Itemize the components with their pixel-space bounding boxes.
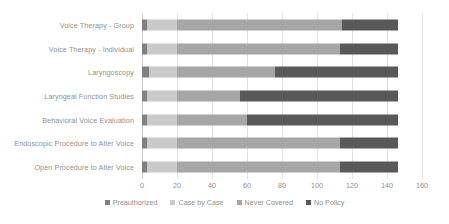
x-axis-tick-labels: 020406080100120140160 <box>0 181 449 193</box>
plot-area <box>142 13 422 179</box>
y-axis-category-label: Laryngeal Function Studies <box>44 92 134 101</box>
bar-segment <box>147 114 177 125</box>
x-axis-tick-label: 80 <box>278 181 286 190</box>
bar-row <box>142 138 398 149</box>
bar-segment <box>147 43 177 54</box>
y-axis-category-label: Voice Therapy - Individual <box>49 44 134 53</box>
bar-segment <box>177 67 275 78</box>
x-axis-tick-label: 100 <box>311 181 323 190</box>
legend-label: Case by Case <box>178 198 223 207</box>
legend-label: Never Covered <box>245 198 293 207</box>
bar-segment <box>147 19 177 30</box>
y-axis-category-label: Open Procedure to Alter Voice <box>34 163 134 172</box>
bar-segment <box>177 43 340 54</box>
bar-segment <box>147 162 177 173</box>
bar-segment <box>340 43 398 54</box>
legend-swatch-icon <box>306 200 311 205</box>
y-axis-category-label: Endoscopic Procedure to Alter Voice <box>14 139 134 148</box>
x-axis-tick-label: 20 <box>173 181 181 190</box>
bar-segment <box>147 138 177 149</box>
x-axis-tick-label: 0 <box>140 181 144 190</box>
bar-segment <box>177 138 340 149</box>
legend-item[interactable]: No Policy <box>306 198 344 207</box>
x-axis-tick-label: 140 <box>381 181 393 190</box>
x-axis-tick-label: 40 <box>208 181 216 190</box>
gridline <box>422 13 423 179</box>
bar-segment <box>275 67 398 78</box>
legend-swatch-icon <box>105 200 110 205</box>
bar-row <box>142 114 398 125</box>
bar-segment <box>147 91 177 102</box>
legend-item[interactable]: Preauthorized <box>105 198 158 207</box>
x-axis-tick-label: 160 <box>416 181 428 190</box>
x-axis-tick-label: 120 <box>346 181 358 190</box>
x-axis-tick-label: 60 <box>243 181 251 190</box>
bar-segment <box>340 162 398 173</box>
legend-item[interactable]: Never Covered <box>237 198 293 207</box>
legend-label: Preauthorized <box>113 198 158 207</box>
bar-row <box>142 19 398 30</box>
bar-row <box>142 67 398 78</box>
legend-label: No Policy <box>314 198 344 207</box>
legend-item[interactable]: Case by Case <box>170 198 223 207</box>
bar-segment <box>240 91 398 102</box>
bar-segment <box>142 67 149 78</box>
chart-legend: PreauthorizedCase by CaseNever CoveredNo… <box>0 198 449 207</box>
legend-swatch-icon <box>170 200 175 205</box>
bar-segment <box>177 162 340 173</box>
bar-segment <box>149 67 177 78</box>
y-axis-category-label: Behavioral Voice Evaluation <box>42 115 134 124</box>
y-axis-category-label: Voice Therapy - Group <box>60 20 134 29</box>
bar-segment <box>177 19 342 30</box>
y-axis-category-label: Laryngoscopy <box>88 68 134 77</box>
bar-segment <box>340 138 398 149</box>
bar-row <box>142 162 398 173</box>
bar-segment <box>247 114 398 125</box>
bar-row <box>142 91 398 102</box>
bar-segment <box>177 91 240 102</box>
bar-row <box>142 43 398 54</box>
legend-swatch-icon <box>237 200 242 205</box>
bar-segment <box>177 114 247 125</box>
bar-segment <box>342 19 398 30</box>
y-axis-category-labels: Voice Therapy - GroupVoice Therapy - Ind… <box>0 13 138 179</box>
chart-container: Voice Therapy - GroupVoice Therapy - Ind… <box>0 0 449 224</box>
